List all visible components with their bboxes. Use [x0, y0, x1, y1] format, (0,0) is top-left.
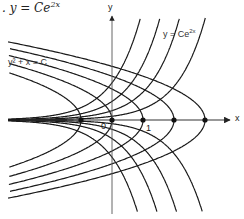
vertex-point [171, 117, 176, 122]
vertex-point [109, 117, 114, 122]
tick-one-label: 1 [146, 123, 151, 133]
exponential-family-label: y = Ce2x [163, 28, 196, 39]
figure-title: . y = Ce2x [2, 0, 60, 15]
parabola-family-label: y² + x = C [8, 57, 47, 67]
origin-label: 0 [101, 121, 106, 131]
orthogonal-trajectories-diagram [0, 0, 244, 219]
vertex-point [202, 117, 207, 122]
y-axis-label: y [108, 2, 113, 12]
x-axis-label: x [235, 113, 240, 123]
exponential-curve [8, 120, 176, 212]
exponential-curve [8, 19, 179, 120]
vertex-point [78, 117, 83, 122]
vertex-point [140, 117, 145, 122]
exponential-family-curves [8, 18, 205, 212]
exponential-curve [8, 19, 160, 120]
